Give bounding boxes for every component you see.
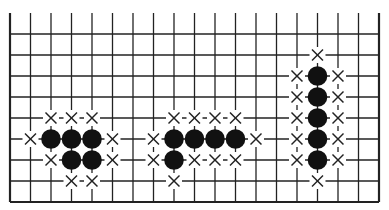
black-stone [41,129,61,149]
black-stone [308,66,328,86]
black-stone [82,129,102,149]
black-stone [164,150,184,170]
black-stone [226,129,246,149]
black-stone [308,129,328,149]
go-board-diagram [0,0,389,210]
black-stone [185,129,205,149]
black-stone [205,129,225,149]
black-stone [308,87,328,107]
black-stone [82,150,102,170]
black-stone [308,150,328,170]
black-stone [62,150,82,170]
black-stone [62,129,82,149]
black-stone [164,129,184,149]
black-stone [308,108,328,128]
